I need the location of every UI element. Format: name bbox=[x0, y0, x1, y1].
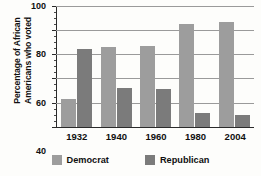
y-tick-minor bbox=[54, 109, 57, 110]
y-tick-label: 100 bbox=[31, 1, 46, 11]
bar-group bbox=[179, 6, 210, 127]
bar-republican-1932 bbox=[77, 49, 92, 126]
chart-legend: DemocratRepublican bbox=[0, 155, 261, 165]
y-tick-minor bbox=[54, 48, 57, 49]
y-tick-minor bbox=[54, 12, 57, 13]
bar-republican-1960 bbox=[156, 89, 171, 126]
bar-group bbox=[140, 6, 171, 127]
y-tick-label: 60 bbox=[36, 98, 46, 108]
legend-item-democrat: Democrat bbox=[52, 155, 109, 165]
y-axis-title: Percentage of African Americans who vote… bbox=[12, 0, 33, 125]
plot-area: 020406080100 bbox=[56, 6, 254, 128]
y-tick-minor bbox=[54, 18, 57, 19]
y-tick-minor bbox=[54, 60, 57, 61]
y-tick-minor bbox=[54, 90, 57, 91]
x-axis-label-1980: 1980 bbox=[179, 131, 212, 142]
y-tick-label: 80 bbox=[36, 49, 46, 59]
y-tick-minor bbox=[54, 42, 57, 43]
bar-republican-2004 bbox=[235, 115, 250, 127]
y-tick-minor bbox=[54, 24, 57, 25]
x-axis-labels: 19321940196019802004 bbox=[57, 131, 255, 142]
bar-republican-1980 bbox=[195, 113, 210, 126]
bar-group bbox=[61, 6, 92, 127]
x-axis-label-1940: 1940 bbox=[100, 131, 133, 142]
y-tick-minor bbox=[54, 121, 57, 122]
legend-label: Democrat bbox=[67, 155, 109, 165]
y-tick-minor bbox=[54, 72, 57, 73]
y-axis-title-container: Percentage of African Americans who vote… bbox=[0, 0, 34, 136]
x-axis-label-1960: 1960 bbox=[139, 131, 172, 142]
y-tick-minor bbox=[54, 84, 57, 85]
legend-swatch-icon-republican bbox=[145, 155, 155, 165]
bar-democrat-2004 bbox=[219, 22, 234, 127]
legend-label: Republican bbox=[160, 155, 210, 165]
x-axis-label-1932: 1932 bbox=[60, 131, 93, 142]
y-tick-major: 20 bbox=[52, 103, 56, 104]
bar-democrat-1960 bbox=[140, 46, 155, 127]
legend-swatch-icon-democrat bbox=[52, 155, 62, 165]
bar-democrat-1980 bbox=[179, 24, 194, 127]
y-tick-major: 80 bbox=[52, 30, 56, 31]
bar-democrat-1932 bbox=[61, 99, 76, 127]
bar-group bbox=[219, 6, 250, 127]
legend-item-republican: Republican bbox=[145, 155, 210, 165]
bar-republican-1940 bbox=[117, 88, 132, 127]
y-tick-major: 0 bbox=[52, 127, 56, 128]
y-tick-minor bbox=[54, 36, 57, 37]
y-tick-minor bbox=[54, 66, 57, 67]
y-tick-major: 100 bbox=[52, 6, 56, 7]
bar-group bbox=[101, 6, 132, 127]
bar-democrat-1940 bbox=[101, 47, 116, 127]
bar-chart: Percentage of African Americans who vote… bbox=[0, 0, 261, 176]
y-tick-minor bbox=[54, 97, 57, 98]
bar-series-container bbox=[57, 6, 254, 127]
x-axis-line bbox=[56, 127, 254, 128]
y-tick-minor bbox=[54, 115, 57, 116]
y-tick-major: 40 bbox=[52, 78, 56, 79]
x-axis-label-2004: 2004 bbox=[219, 131, 252, 142]
y-tick-major: 60 bbox=[52, 54, 56, 55]
